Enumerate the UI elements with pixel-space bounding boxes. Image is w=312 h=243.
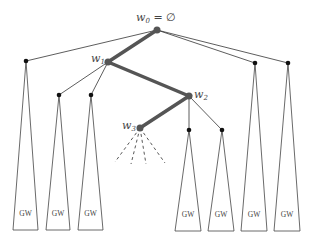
label-w1: w1 (91, 52, 105, 66)
edge-w1-a (59, 62, 108, 95)
edge-root-right2 (157, 30, 288, 63)
subtree-7: GW (274, 63, 300, 231)
tree-diagram: GW GW GW GW GW GW GW (0, 0, 312, 243)
edge-w1-b (91, 62, 108, 95)
subtree-label: GW (248, 210, 261, 219)
subtree-label: GW (281, 210, 294, 219)
subtree-5: GW (208, 130, 234, 231)
subtree-label: GW (84, 209, 97, 218)
node-w1 (105, 59, 112, 66)
node-w2 (186, 93, 193, 100)
subtree-2: GW (46, 95, 70, 230)
node-w3 (137, 125, 144, 132)
subtree-6: GW (241, 63, 267, 231)
subtree-3: GW (78, 95, 103, 230)
subtree-1: GW (13, 61, 38, 230)
label-w3: w3 (122, 119, 136, 133)
edge-root-right1 (157, 30, 255, 63)
continuation-dashes (115, 128, 165, 164)
label-w0: w0 = ∅ (136, 11, 176, 25)
subtree-label: GW (215, 210, 228, 219)
subtree-label: GW (52, 209, 65, 218)
subtree-label: GW (19, 209, 32, 218)
subtree-4: GW (175, 130, 201, 231)
node-w0 (154, 27, 161, 34)
highlighted-path (108, 30, 189, 128)
label-w2: w2 (194, 88, 208, 102)
subtree-label: GW (182, 210, 195, 219)
